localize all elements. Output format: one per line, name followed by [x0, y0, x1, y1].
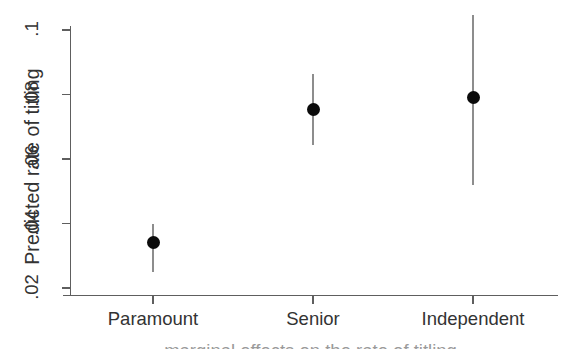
chart-figure: Predicted rate of titling .02.04.06.08.1… — [0, 0, 574, 349]
y-axis-tick-label: .1 — [21, 5, 43, 53]
y-axis-tick-label: .02 — [21, 263, 43, 311]
y-axis-tick-label: .06 — [21, 134, 43, 182]
y-axis-tick-mark — [62, 223, 70, 224]
x-axis-tick-label: Independent — [393, 308, 553, 330]
x-axis-tick-label: Senior — [233, 308, 393, 330]
y-axis-tick-mark — [62, 158, 70, 159]
y-axis-tick-label: .04 — [21, 199, 43, 247]
data-point-marker — [147, 236, 160, 249]
x-axis-tick-mark — [472, 296, 473, 304]
x-axis-line — [63, 295, 558, 296]
y-axis-tick-mark — [62, 29, 70, 30]
data-point-marker — [467, 91, 480, 104]
y-axis-tick-label: .08 — [21, 70, 43, 118]
y-axis-line — [70, 26, 71, 296]
x-axis-tick-mark — [152, 296, 153, 304]
x-axis-caption-clipped: marginal effects on the rate of titling — [63, 340, 558, 349]
x-axis-tick-mark — [312, 296, 313, 304]
data-point-marker — [307, 103, 320, 116]
x-axis-tick-label: Paramount — [73, 308, 233, 330]
y-axis-tick-mark — [62, 287, 70, 288]
y-axis-tick-mark — [62, 94, 70, 95]
